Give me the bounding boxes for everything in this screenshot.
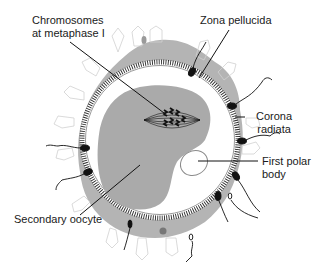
label-chromosomes: Chromosomes at metaphase I (32, 14, 105, 40)
label-first-polar-body: First polar body (262, 155, 311, 181)
label-secondary-oocyte: Secondary oocyte (14, 213, 102, 226)
diagram-drawing (0, 0, 322, 278)
label-corona-radiata: Corona radiata (256, 110, 292, 136)
oocyte-diagram: Chromosomes at metaphase I Zona pellucid… (0, 0, 322, 278)
label-zona-pellucida: Zona pellucida (200, 14, 272, 27)
